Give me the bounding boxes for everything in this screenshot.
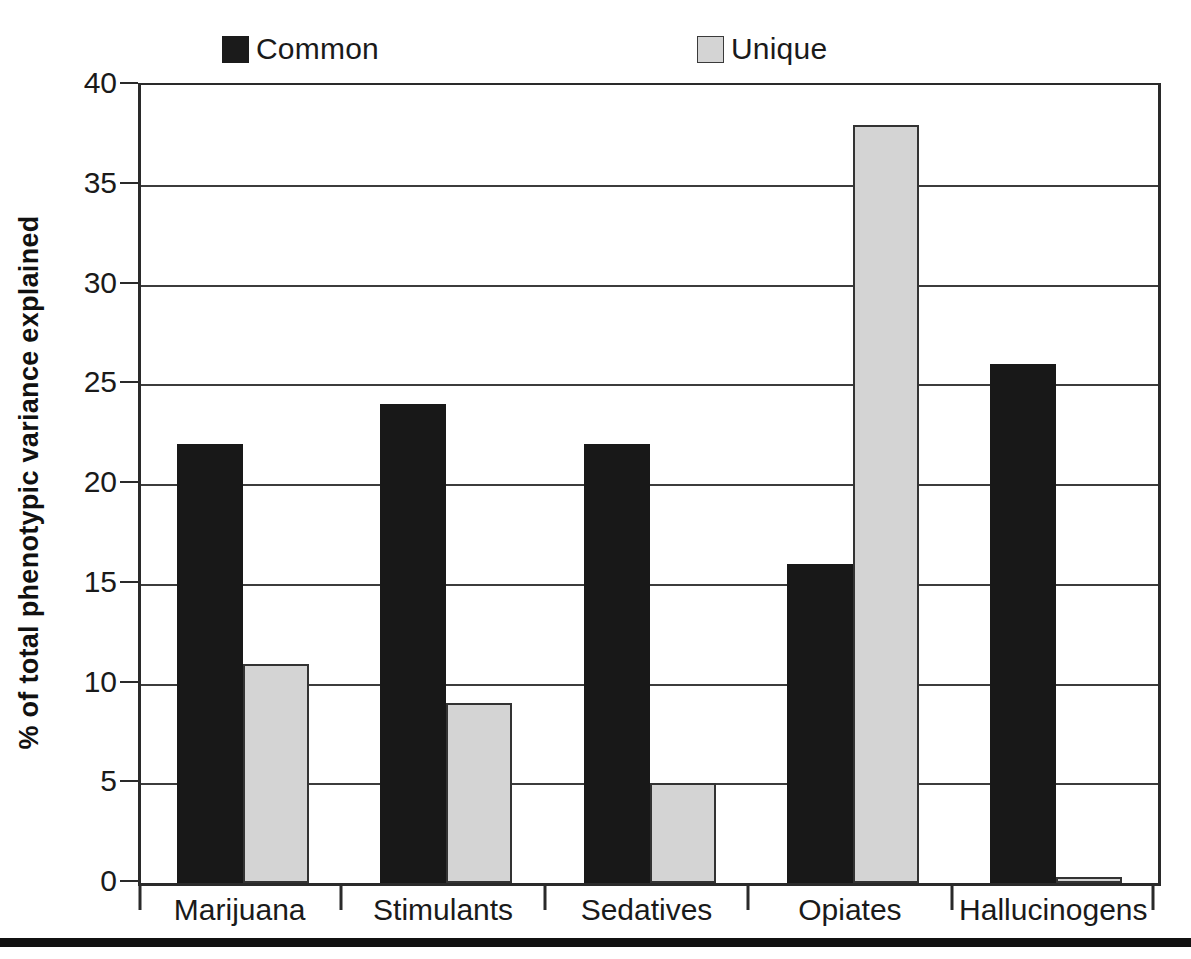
y-axis-tick-label: 35 — [55, 168, 117, 198]
bar-unique-hallucinogens — [1056, 877, 1122, 883]
legend-swatch-unique-icon — [697, 36, 724, 63]
bar-unique-marijuana — [243, 664, 309, 883]
legend-label-common: Common — [256, 34, 379, 64]
y-axis-title-container: % of total phenotypic variance explained — [6, 83, 52, 881]
plot-area — [138, 83, 1161, 886]
bar-common-hallucinogens — [990, 364, 1056, 883]
y-axis-tick-mark — [120, 82, 138, 84]
bar-common-stimulants — [380, 404, 446, 883]
bar-chart-figure: Common Unique % of total phenotypic vari… — [0, 0, 1191, 959]
x-axis-label-marijuana: Marijuana — [174, 893, 306, 926]
y-axis-tick-mark — [120, 381, 138, 383]
bar-unique-sedatives — [650, 783, 716, 883]
y-axis-tick-label: 25 — [55, 367, 117, 397]
footer-rule — [0, 938, 1191, 947]
y-axis-tick-marks — [120, 83, 140, 881]
x-axis-tick-labels: MarijuanaStimulantsSedativesOpiatesHallu… — [138, 893, 1155, 935]
y-axis-tick-label: 20 — [55, 467, 117, 497]
y-axis-tick-label: 15 — [55, 567, 117, 597]
y-axis-tick-mark — [120, 182, 138, 184]
x-axis-label-stimulants: Stimulants — [373, 893, 513, 926]
bar-unique-stimulants — [446, 703, 512, 883]
y-axis-tick-label: 30 — [55, 268, 117, 298]
y-axis-tick-mark — [120, 780, 138, 782]
legend-entry-common: Common — [222, 28, 379, 70]
y-axis-tick-mark — [120, 282, 138, 284]
bar-common-sedatives — [584, 444, 650, 883]
x-axis-label-sedatives: Sedatives — [581, 893, 713, 926]
y-axis-tick-mark — [120, 581, 138, 583]
bar-series-container — [141, 85, 1158, 883]
legend-swatch-common-icon — [222, 36, 249, 63]
y-axis-tick-labels: 0510152025303540 — [55, 83, 117, 881]
y-axis-title: % of total phenotypic variance explained — [14, 215, 45, 749]
y-axis-tick-mark — [120, 681, 138, 683]
x-axis-label-opiates: Opiates — [798, 893, 901, 926]
bar-common-marijuana — [177, 444, 243, 883]
chart-legend: Common Unique — [0, 28, 1191, 70]
legend-entry-unique: Unique — [697, 28, 827, 70]
y-axis-tick-label: 10 — [55, 667, 117, 697]
y-axis-tick-label: 5 — [55, 766, 117, 796]
x-axis-label-hallucinogens: Hallucinogens — [959, 893, 1147, 926]
bar-unique-opiates — [853, 125, 919, 883]
legend-label-unique: Unique — [731, 34, 827, 64]
bar-common-opiates — [787, 564, 853, 883]
y-axis-tick-mark — [120, 880, 138, 882]
y-axis-tick-mark — [120, 481, 138, 483]
y-axis-tick-label: 40 — [55, 68, 117, 98]
y-axis-tick-label: 0 — [55, 866, 117, 896]
